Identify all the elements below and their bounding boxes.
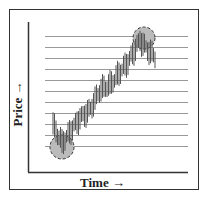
y-axis-label: Price →: [10, 74, 26, 134]
price-chart: [0, 0, 206, 199]
x-axis-label: Time →: [80, 175, 125, 191]
